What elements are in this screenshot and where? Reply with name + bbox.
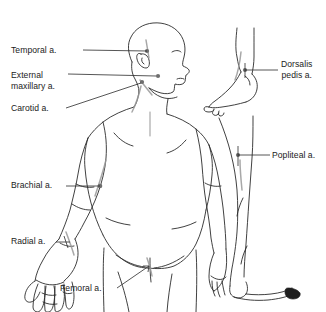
inset-foot-ankle-detail (245, 76, 250, 85)
label-popliteal-artery: Popliteal a. (272, 150, 315, 161)
label-external-maxillary-line2: maxillary a. (11, 81, 55, 92)
inset-tick-group (238, 63, 245, 166)
brow-line (172, 51, 181, 53)
label-radial-artery: Radial a. (11, 236, 45, 247)
body-outline-group (25, 23, 293, 312)
right-hand-outer (214, 249, 227, 291)
right-gluteal-fold (154, 256, 184, 268)
head-profile-outline (128, 23, 189, 94)
label-dorsalis-pedis-line2: pedis a. (281, 70, 312, 81)
artery-highlights-group (66, 40, 242, 276)
left-gluteal-fold (116, 255, 145, 267)
right-arm-inner (196, 129, 214, 253)
finger-crease-1 (42, 293, 56, 295)
brachial-artery-highlight (95, 160, 106, 196)
right-finger-1 (212, 281, 215, 296)
left-shoulder-slope (88, 107, 134, 138)
label-dorsalis-pedis-artery: Dorsalis pedis a. (281, 59, 312, 81)
right-finger-2 (217, 282, 220, 297)
right-arm-outer (209, 145, 226, 249)
label-femoral-artery: Femoral a. (60, 283, 102, 294)
inset-leg-toe-tip (285, 288, 300, 299)
leader-temporal (83, 50, 147, 51)
inset-leg-medial (244, 116, 253, 277)
right-hand-inner (209, 253, 214, 291)
mouth-line (177, 78, 184, 79)
right-thigh-inner (167, 274, 172, 312)
leader-lines-group (56, 50, 278, 288)
label-brachial-artery: Brachial a. (11, 180, 52, 191)
pressure-point-markers-group (98, 49, 247, 188)
ear-inner-detail (142, 58, 144, 64)
torso-right-flank (206, 145, 212, 210)
finger-middle (45, 286, 55, 312)
right-shoulder-slope (167, 114, 209, 145)
left-scapula-line (114, 133, 133, 146)
ear-outline (137, 53, 150, 68)
right-waist-crease (172, 222, 196, 229)
anatomy-diagram: Temporal a. External maxillary a. Caroti… (0, 0, 326, 312)
label-external-maxillary-artery: External maxillary a. (11, 70, 55, 92)
right-elbow-crease (205, 183, 221, 186)
marker-external-maxillary (156, 74, 160, 78)
inset-leg-heel (230, 282, 248, 298)
label-external-maxillary-line1: External (11, 70, 43, 80)
leader-external-maxillary (68, 74, 156, 76)
left-gluteal-contour (103, 235, 148, 268)
inset-foot-sole (209, 102, 246, 108)
right-thigh-outer (196, 250, 197, 312)
left-thigh-inner (118, 272, 129, 312)
inset-foot-shin-back (252, 28, 254, 74)
right-finger-3 (222, 281, 225, 295)
radial-artery-highlight (66, 232, 74, 255)
label-dorsalis-pedis-line1: Dorsalis (281, 59, 312, 69)
label-carotid-artery: Carotid a. (11, 103, 49, 114)
finger-index (33, 284, 45, 312)
right-gluteal-contour (148, 210, 206, 269)
dorsalis-pedis-artery-highlight (235, 52, 241, 80)
neck-front (167, 99, 168, 114)
forearm-detail (72, 204, 90, 210)
leader-femoral (117, 266, 149, 288)
right-scapula-line (167, 140, 186, 153)
leader-carotid (66, 83, 141, 108)
left-arm-inner (75, 122, 106, 239)
label-temporal-artery: Temporal a. (11, 45, 56, 56)
carotid-artery-highlight (132, 86, 141, 112)
occiput-to-neck (132, 62, 139, 92)
left-thigh-outer (103, 248, 104, 312)
popliteal-artery-highlight (240, 160, 242, 190)
left-waist-crease (106, 218, 130, 225)
inset-leg-achilles-detail (241, 246, 247, 264)
